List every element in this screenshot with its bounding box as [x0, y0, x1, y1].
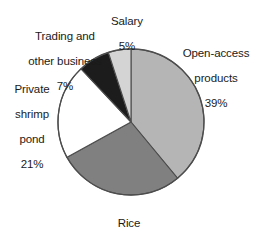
pie-label-shrimp-value: 21%: [4, 158, 60, 171]
pie-chart-figure: Salary 5% Trading and other business 7% …: [0, 0, 257, 235]
pie-label-open-access-products: Open-access products 39%: [176, 34, 256, 122]
pie-label-shrimp-name-line2: shrimp: [4, 108, 60, 121]
pie-label-open-access-name-line1: Open-access: [176, 47, 256, 60]
pie-label-trading-name-line1: Trading and: [13, 30, 117, 43]
pie-label-trading-name-line2: other business: [13, 55, 117, 68]
pie-label-private-shrimp-pond: Private shrimp pond 21%: [4, 70, 60, 183]
pie-label-open-access-name-line2: products: [176, 72, 256, 85]
pie-label-rice-name: Rice: [104, 217, 154, 230]
pie-label-rice: Rice 28%: [104, 204, 154, 235]
pie-label-open-access-value: 39%: [176, 97, 256, 110]
pie-label-shrimp-name-line1: Private: [4, 83, 60, 96]
pie-label-shrimp-name-line3: pond: [4, 133, 60, 146]
